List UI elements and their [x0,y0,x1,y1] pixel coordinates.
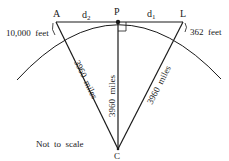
label-d1: d1 [147,8,156,21]
label-c: C [114,151,120,161]
label-l: L [180,8,186,19]
label-height-left: 10,000 feet [6,28,49,38]
earth-geometry-diagram: A P L C d2 d1 10,000 feet 362 feet 3960 … [0,0,229,161]
right-height-bracket [185,23,187,32]
left-height-bracket [52,23,55,35]
label-p: P [114,6,120,17]
not-to-scale-note: Not to scale [36,139,84,149]
label-a: A [53,8,61,19]
label-radius-left: 3960 miles [72,58,100,101]
point-c-dot [117,148,120,151]
label-radius-center: 3960 miles [107,75,117,117]
label-d2: d2 [82,9,91,22]
point-p-dot [116,20,120,24]
radius-right [118,22,183,149]
label-height-right: 362 feet [190,27,222,37]
